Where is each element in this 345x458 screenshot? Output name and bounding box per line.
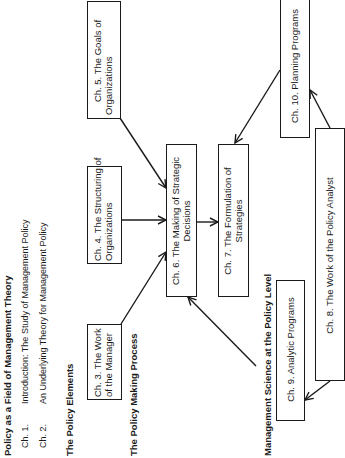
box-ch10-planning-programs: Ch. 10. Planning Programs <box>280 0 310 138</box>
ch4-line2: Organizations <box>103 139 114 261</box>
box-ch7-formulation-of-strategies: Ch. 7. The Formulation of Strategies <box>218 144 249 297</box>
ch5-line2: Organizations <box>103 7 114 115</box>
ch10-line1: Ch. 10. Planning Programs <box>289 1 300 131</box>
ch5-line1: Ch. 5. The Goals of <box>92 7 103 115</box>
ch7-line2: Strategies <box>233 148 244 294</box>
box-ch6-making-strategic-decisions: Ch. 6. The Making of Strategic Decisions <box>166 144 197 297</box>
box-ch5-goals-of-organizations: Ch. 5. The Goals of Organizations <box>87 1 121 119</box>
ch7-line1: Ch. 7. The Formulation of <box>222 148 233 294</box>
box-ch4-structuring-of-organizations: Ch. 4. The Structuring of Organizations <box>87 166 122 264</box>
ch8-line1: Ch. 8. The Work of the Policy Analyst <box>324 133 335 378</box>
ch9-line1: Ch. 9. Analytic Programs <box>285 281 296 418</box>
ch4-line1: Ch. 4. The Structuring of <box>92 139 103 261</box>
box-ch9-analytic-programs: Ch. 9. Analytic Programs <box>276 280 305 421</box>
box-ch3-work-of-manager: Ch. 3. The Work of the Manager <box>87 324 122 400</box>
ch6-line2: Decisions <box>181 148 192 294</box>
ch3-line2: of the Manager <box>103 327 114 397</box>
ch3-line1: Ch. 3. The Work <box>92 327 103 397</box>
box-ch8-work-of-policy-analyst: Ch. 8. The Work of the Policy Analyst <box>315 128 345 381</box>
ch6-line1: Ch. 6. The Making of Strategic <box>170 148 181 294</box>
